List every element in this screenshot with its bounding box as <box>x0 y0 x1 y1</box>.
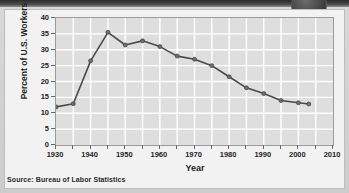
x-tick-label: 1950 <box>109 150 139 159</box>
y-tick-label: 0 <box>29 140 49 149</box>
x-tick-mark <box>228 145 229 149</box>
y-tick-label: 35 <box>29 29 49 38</box>
y-tick-mark <box>51 128 55 129</box>
x-tick-mark <box>280 145 281 149</box>
x-tick-mark <box>176 145 177 149</box>
y-tick-label: 20 <box>29 77 49 86</box>
x-tick-mark <box>263 145 264 149</box>
x-tick-label: 1990 <box>248 150 278 159</box>
x-tick-mark <box>55 145 56 149</box>
x-tick-mark <box>72 145 73 149</box>
x-tick-mark <box>332 145 333 149</box>
y-tick-label: 10 <box>29 108 49 117</box>
y-tick-label: 40 <box>29 13 49 22</box>
x-tick-mark <box>159 145 160 149</box>
x-tick-mark <box>107 145 108 149</box>
y-tick-label: 25 <box>29 61 49 70</box>
x-tick-label: 1980 <box>213 150 243 159</box>
x-tick-mark <box>90 145 91 149</box>
plot-area <box>55 17 334 146</box>
x-tick-label: 1930 <box>40 150 70 159</box>
x-tick-label: 2000 <box>282 150 312 159</box>
chart: Percent of U.S. Workers 0510152025303540… <box>0 0 349 193</box>
x-tick-mark <box>211 145 212 149</box>
figure-container: Percent of U.S. Workers 0510152025303540… <box>0 0 349 193</box>
x-tick-mark <box>297 145 298 149</box>
x-tick-label: 2010 <box>317 150 347 159</box>
y-axis-title: Percent of U.S. Workers <box>19 0 29 111</box>
y-tick-mark <box>51 49 55 50</box>
y-tick-mark <box>51 65 55 66</box>
y-tick-mark <box>51 17 55 18</box>
x-tick-label: 1960 <box>144 150 174 159</box>
x-tick-mark <box>315 145 316 149</box>
plot-svg <box>56 18 333 145</box>
y-tick-mark <box>51 144 55 145</box>
y-tick-label: 30 <box>29 45 49 54</box>
x-tick-mark <box>142 145 143 149</box>
y-tick-label: 5 <box>29 124 49 133</box>
x-tick-mark <box>245 145 246 149</box>
y-tick-mark <box>51 33 55 34</box>
x-tick-mark <box>194 145 195 149</box>
y-tick-mark <box>51 81 55 82</box>
y-tick-mark <box>51 112 55 113</box>
x-tick-mark <box>124 145 125 149</box>
y-axis-tick-labels: 0510152025303540 <box>29 0 49 193</box>
x-tick-label: 1970 <box>179 150 209 159</box>
y-tick-mark <box>51 96 55 97</box>
source-note: Source: Bureau of Labor Statistics <box>7 176 126 183</box>
y-tick-label: 15 <box>29 92 49 101</box>
x-axis-title: Year <box>55 163 335 173</box>
x-tick-label: 1940 <box>75 150 105 159</box>
